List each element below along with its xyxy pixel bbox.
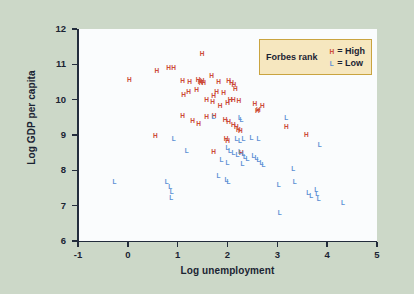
x-tick-label: 4 bbox=[315, 249, 339, 260]
x-tick-mark bbox=[177, 242, 179, 247]
data-point-low: L bbox=[235, 152, 239, 159]
data-point-low: L bbox=[277, 182, 281, 189]
data-point-high: H bbox=[186, 89, 191, 96]
y-tick-label: 7 bbox=[38, 200, 66, 211]
x-tick-mark bbox=[127, 242, 129, 247]
legend-box: Forbes rank H = High L = Low bbox=[259, 39, 372, 75]
data-point-low: L bbox=[217, 172, 221, 179]
data-point-high: H bbox=[253, 101, 258, 108]
data-point-low: L bbox=[169, 195, 173, 202]
data-point-high: H bbox=[218, 102, 223, 109]
data-point-high: H bbox=[180, 78, 185, 85]
data-point-high: H bbox=[212, 112, 217, 119]
data-point-low: L bbox=[226, 145, 230, 152]
data-point-high: H bbox=[234, 124, 239, 131]
data-point-high: H bbox=[224, 135, 229, 142]
data-point-low: L bbox=[241, 151, 245, 158]
x-tick-label: 3 bbox=[265, 249, 289, 260]
x-tick-mark bbox=[376, 242, 378, 247]
data-point-high: H bbox=[231, 96, 236, 103]
legend-marker-high-icon: H bbox=[328, 48, 335, 55]
data-point-high: H bbox=[256, 106, 261, 113]
data-point-low: L bbox=[245, 156, 249, 163]
data-point-low: L bbox=[240, 161, 244, 168]
data-point-high: H bbox=[190, 118, 195, 125]
data-point-high: H bbox=[200, 78, 205, 85]
data-point-low: L bbox=[309, 193, 313, 200]
data-point-high: H bbox=[209, 72, 214, 79]
y-tick-mark bbox=[72, 240, 77, 242]
scatter-plot-figure: HHHHHHHHHHHHHHHHHHHHHHHHHHHHHHHHHHHHHHHH… bbox=[0, 0, 414, 294]
data-point-high: H bbox=[229, 79, 234, 86]
data-point-high: H bbox=[225, 100, 230, 107]
data-point-high: H bbox=[166, 65, 171, 72]
data-point-low: L bbox=[259, 159, 263, 166]
data-point-low: L bbox=[238, 149, 242, 156]
y-tick-label: 12 bbox=[38, 23, 66, 34]
data-point-high: H bbox=[226, 78, 231, 85]
data-point-high: H bbox=[180, 112, 185, 119]
data-point-low: L bbox=[112, 178, 116, 185]
data-point-high: H bbox=[154, 68, 159, 75]
x-tick-label: 5 bbox=[365, 249, 389, 260]
data-point-low: L bbox=[293, 178, 297, 185]
data-point-high: H bbox=[221, 90, 226, 97]
data-point-low: L bbox=[231, 150, 235, 157]
y-tick-label: 11 bbox=[38, 58, 66, 69]
data-point-low: L bbox=[220, 156, 224, 163]
data-point-high: H bbox=[238, 128, 243, 135]
data-point-high: H bbox=[196, 121, 201, 128]
data-point-low: L bbox=[238, 138, 242, 145]
data-point-high: H bbox=[153, 132, 158, 139]
y-tick-mark bbox=[72, 205, 77, 207]
data-point-high: H bbox=[171, 65, 176, 72]
data-point-high: H bbox=[260, 103, 265, 110]
legend-item-low: L = Low bbox=[328, 58, 365, 68]
data-point-low: L bbox=[239, 117, 243, 124]
legend-label-high: = High bbox=[337, 46, 365, 56]
y-axis-label: Log GDP per capita bbox=[26, 43, 37, 193]
data-point-low: L bbox=[284, 115, 288, 122]
data-point-low: L bbox=[165, 178, 169, 185]
data-point-high: H bbox=[223, 117, 228, 124]
data-point-low: L bbox=[256, 135, 260, 142]
data-point-low: L bbox=[168, 184, 172, 191]
data-point-high: H bbox=[304, 132, 309, 139]
data-point-low: L bbox=[317, 196, 321, 203]
data-point-high: H bbox=[127, 77, 132, 84]
y-tick-label: 10 bbox=[38, 94, 66, 105]
data-point-high: H bbox=[187, 79, 192, 86]
data-point-low: L bbox=[241, 136, 245, 143]
y-tick-mark bbox=[72, 99, 77, 101]
data-point-low: L bbox=[251, 153, 255, 160]
legend-item-high: H = High bbox=[328, 46, 365, 56]
data-point-high: H bbox=[232, 82, 237, 89]
y-tick-mark bbox=[72, 64, 77, 66]
legend-title: Forbes rank bbox=[266, 52, 328, 62]
data-point-high: H bbox=[204, 96, 209, 103]
data-point-low: L bbox=[254, 155, 258, 162]
data-point-high: H bbox=[198, 79, 203, 86]
data-point-low: L bbox=[226, 159, 230, 166]
data-point-high: H bbox=[196, 77, 201, 84]
data-point-low: L bbox=[249, 135, 253, 142]
data-point-low: L bbox=[314, 187, 318, 194]
data-point-high: H bbox=[231, 122, 236, 129]
data-point-high: H bbox=[233, 86, 238, 93]
y-tick-label: 6 bbox=[38, 235, 66, 246]
data-point-low: L bbox=[185, 148, 189, 155]
data-point-low: L bbox=[306, 190, 310, 197]
data-point-high: H bbox=[181, 92, 186, 99]
y-axis-line bbox=[77, 29, 79, 242]
data-point-high: H bbox=[211, 149, 216, 156]
data-point-low: L bbox=[341, 200, 345, 207]
data-point-high: H bbox=[226, 118, 231, 125]
data-point-high: H bbox=[201, 79, 206, 86]
x-tick-mark bbox=[277, 242, 279, 247]
x-tick-mark bbox=[326, 242, 328, 247]
data-point-low: L bbox=[318, 142, 322, 149]
x-tick-label: 2 bbox=[216, 249, 240, 260]
data-point-low: L bbox=[228, 148, 232, 155]
x-axis-label: Log unemployment bbox=[78, 265, 377, 276]
y-tick-mark bbox=[72, 134, 77, 136]
